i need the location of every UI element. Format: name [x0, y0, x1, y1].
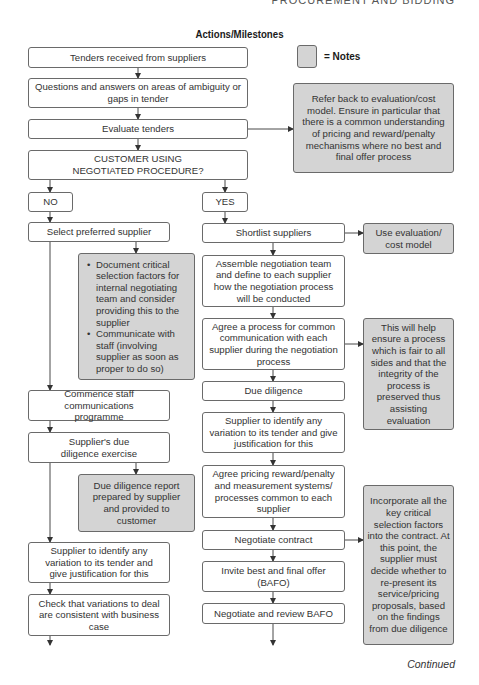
note-fair-process: This will help ensure a process which is…	[363, 318, 454, 430]
note-incorporate-factors: Incorporate all the key critical selecti…	[363, 485, 454, 645]
step-tenders-received: Tenders received from suppliers	[28, 47, 248, 68]
step-shortlist-suppliers: Shortlist suppliers	[202, 223, 345, 243]
step-due-diligence: Due diligence	[202, 381, 345, 401]
continued-label: Continued	[407, 658, 455, 670]
legend-note-swatch	[297, 45, 317, 68]
legend-label: = Notes	[324, 51, 360, 62]
note-bullet-list: Document critical selection factors for …	[85, 259, 191, 375]
step-supplier-due-diligence: Supplier's due diligence exercise	[28, 432, 170, 463]
note-bullet: Document critical selection factors for …	[96, 259, 191, 329]
step-check-variations: Check that variations to deal are consis…	[28, 594, 170, 636]
branch-yes: YES	[202, 192, 248, 212]
step-agree-pricing: Agree pricing reward/penalty and measure…	[202, 465, 345, 518]
step-select-preferred-supplier: Select preferred supplier	[28, 222, 170, 242]
diagram-title: Actions/Milestones	[19, 28, 460, 40]
step-negotiate-contract: Negotiate contract	[202, 530, 345, 550]
step-supplier-identify-variation-right: Supplier to identify any variation to it…	[202, 412, 345, 453]
step-questions-answers: Questions and answers on areas of ambigu…	[28, 78, 248, 108]
note-bullet: Communicate with staff (involving suppli…	[96, 328, 191, 374]
step-invite-bafo: Invite best and final offer (BAFO)	[202, 561, 345, 592]
step-assemble-negotiation-team: Assemble negotiation team and define to …	[202, 255, 345, 307]
step-evaluate-tenders: Evaluate tenders	[28, 119, 248, 139]
decision-negotiated-procedure: CUSTOMER USING NEGOTIATED PROCEDURE?	[28, 150, 248, 180]
note-refer-back: Refer back to evaluation/cost model. Ens…	[293, 83, 454, 173]
note-use-evaluation-model: Use evaluation/ cost model	[363, 223, 454, 254]
step-commence-staff-communications: Commence staff communications programme	[28, 390, 170, 421]
note-due-diligence-report: Due diligence report prepared by supplie…	[78, 474, 195, 532]
note-selection-bullets: Document critical selection factors for …	[78, 253, 195, 380]
step-agree-communication-process: Agree a process for common communication…	[202, 318, 345, 370]
step-negotiate-review-bafo: Negotiate and review BAFO	[202, 603, 345, 624]
branch-no: NO	[28, 192, 73, 212]
running-head: PROCUREMENT AND BIDDING	[271, 0, 455, 6]
step-supplier-identify-variation-left: Supplier to identify any variation to it…	[28, 542, 170, 583]
